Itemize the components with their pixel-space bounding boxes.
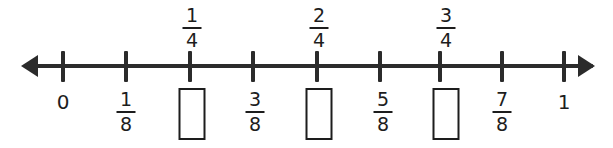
fraction-numerator: 2 bbox=[310, 6, 328, 26]
tick-1-4 bbox=[188, 51, 192, 82]
fraction-five-eighths: 5 8 bbox=[374, 90, 393, 134]
label-three-quarters: 3 4 bbox=[437, 6, 456, 50]
tick-2-4 bbox=[315, 51, 319, 82]
label-one-eighth: 1 8 bbox=[117, 90, 136, 134]
label-one-quarter: 1 4 bbox=[183, 6, 202, 50]
fraction-numerator: 5 bbox=[374, 90, 392, 110]
label-zero: 0 bbox=[57, 92, 70, 112]
fraction-numerator: 1 bbox=[117, 90, 135, 110]
fraction-denominator: 8 bbox=[246, 114, 264, 134]
answer-box-one-quarter[interactable] bbox=[179, 88, 206, 140]
tick-5-8 bbox=[378, 51, 382, 82]
label-seven-eighths: 7 8 bbox=[493, 90, 512, 134]
fraction-two-quarters: 2 4 bbox=[310, 6, 329, 50]
fraction-numerator: 3 bbox=[437, 6, 455, 26]
fraction-denominator: 4 bbox=[437, 30, 455, 50]
tick-1 bbox=[562, 51, 566, 82]
label-zero-text: 0 bbox=[57, 90, 70, 114]
arrow-right-icon bbox=[578, 55, 595, 77]
fraction-denominator: 4 bbox=[183, 30, 201, 50]
label-three-eighths: 3 8 bbox=[246, 90, 265, 134]
fraction-seven-eighths: 7 8 bbox=[493, 90, 512, 134]
fraction-three-eighths: 3 8 bbox=[246, 90, 265, 134]
fraction-numerator: 1 bbox=[183, 6, 201, 26]
tick-1-8 bbox=[124, 51, 128, 82]
fraction-denominator: 4 bbox=[310, 30, 328, 50]
tick-3-4 bbox=[438, 51, 442, 82]
answer-box-three-quarters[interactable] bbox=[433, 88, 460, 140]
number-line-worksheet: 1 4 2 4 3 4 0 1 8 3 8 bbox=[0, 0, 613, 148]
tick-0 bbox=[61, 51, 65, 82]
fraction-numerator: 7 bbox=[493, 90, 511, 110]
tick-3-8 bbox=[251, 51, 255, 82]
label-one-text: 1 bbox=[558, 90, 571, 114]
fraction-numerator: 3 bbox=[246, 90, 264, 110]
fraction-one-quarter: 1 4 bbox=[183, 6, 202, 50]
label-two-quarters: 2 4 bbox=[310, 6, 329, 50]
label-one: 1 bbox=[558, 92, 571, 112]
fraction-denominator: 8 bbox=[493, 114, 511, 134]
arrow-left-icon bbox=[21, 55, 38, 77]
label-five-eighths: 5 8 bbox=[374, 90, 393, 134]
answer-box-two-quarters[interactable] bbox=[306, 88, 333, 140]
fraction-denominator: 8 bbox=[374, 114, 392, 134]
tick-7-8 bbox=[500, 51, 504, 82]
fraction-one-eighth: 1 8 bbox=[117, 90, 136, 134]
fraction-three-quarters: 3 4 bbox=[437, 6, 456, 50]
fraction-denominator: 8 bbox=[117, 114, 135, 134]
